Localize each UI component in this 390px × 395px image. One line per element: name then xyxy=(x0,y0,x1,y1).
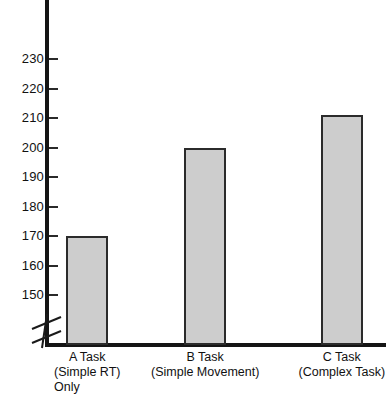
y-tick-label: 220 xyxy=(4,82,44,95)
y-tick-label: 200 xyxy=(4,141,44,154)
y-tick-label: 160 xyxy=(4,259,44,272)
y-tick-mark xyxy=(49,265,58,267)
y-tick-mark xyxy=(49,294,58,296)
y-tick-label: 180 xyxy=(4,200,44,213)
y-tick-label: 150 xyxy=(4,288,44,301)
y-tick-mark xyxy=(49,176,58,178)
y-tick-mark xyxy=(49,235,58,237)
y-tick-mark xyxy=(49,147,58,149)
category-label-sub: Only xyxy=(54,380,120,395)
y-tick-mark xyxy=(49,58,58,60)
y-tick-label: 190 xyxy=(4,170,44,183)
y-tick-mark xyxy=(49,206,58,208)
category-label-sub: (Simple Movement) xyxy=(151,365,259,380)
category-label-name: A Task xyxy=(54,350,120,365)
bar xyxy=(321,115,363,345)
bar xyxy=(184,148,226,346)
category-label: A Task(Simple RT)Only xyxy=(54,350,120,395)
y-tick-mark xyxy=(49,117,58,119)
category-label: B Task(Simple Movement) xyxy=(151,350,259,380)
category-label-sub: (Complex Task) xyxy=(299,365,386,380)
bar xyxy=(66,236,108,345)
y-tick-label: 210 xyxy=(4,111,44,124)
category-label: C Task(Complex Task) xyxy=(299,350,386,380)
axis-break-icon xyxy=(30,312,64,350)
category-label-sub: (Simple RT) xyxy=(54,365,120,380)
y-tick-label: 230 xyxy=(4,52,44,65)
category-label-name: C Task xyxy=(299,350,386,365)
y-tick-label: 170 xyxy=(4,229,44,242)
y-tick-mark xyxy=(49,88,58,90)
category-label-name: B Task xyxy=(151,350,259,365)
